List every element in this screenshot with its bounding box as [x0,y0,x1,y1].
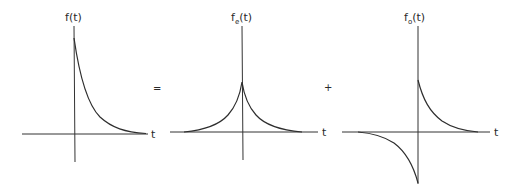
panel-even: fe(t) t [170,11,327,160]
axis-label-t: t [494,126,499,139]
plus-operator: + [324,82,332,93]
equals-operator: = [153,83,161,94]
axis-label-t: t [322,126,327,139]
panel-label: f(t) [65,11,82,24]
even-odd-decomposition-diagram: f(t) t = fe(t) t + fo(t) t [0,0,519,192]
odd-curve-positive [418,80,478,132]
axis-label-t: t [151,128,156,141]
y-axis [242,26,243,160]
panel-original: f(t) t [22,11,156,162]
exponential-curve [74,38,146,134]
panel-odd: fo(t) t [342,11,499,184]
panel-label: fe(t) [231,11,252,26]
panel-label: fo(t) [404,11,425,26]
odd-curve-negative [358,132,418,183]
